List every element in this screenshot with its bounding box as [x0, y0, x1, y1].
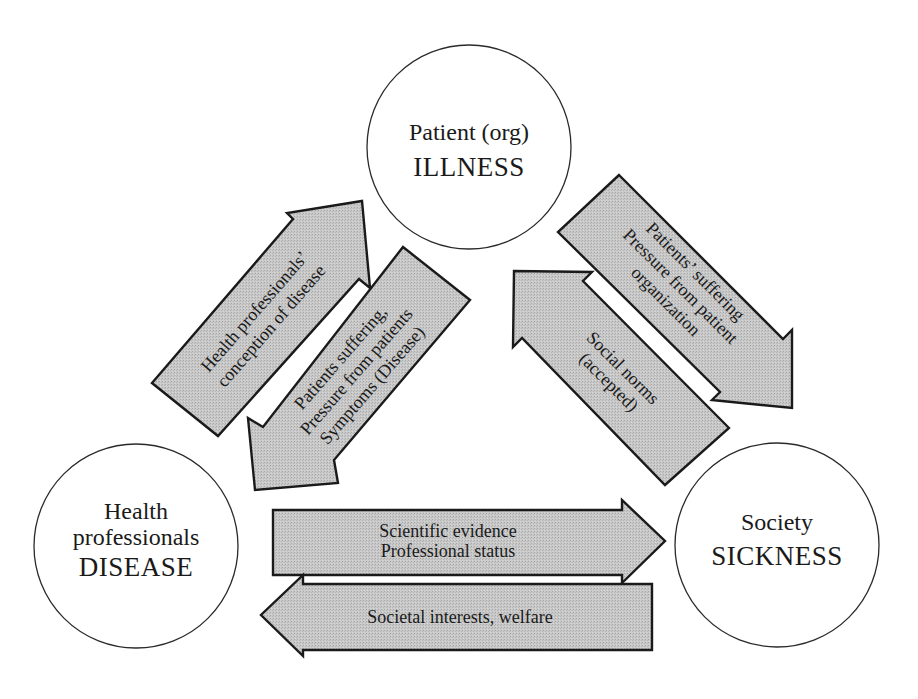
society-label: Society [741, 509, 813, 535]
disease-label: DISEASE [79, 552, 194, 582]
node-health-professionals-disease: Health professionals DISEASE [34, 444, 238, 648]
arrow-hp-to-society-line1: Scientific evidence [379, 521, 516, 541]
patient-circle [367, 45, 571, 249]
health-label: Health [104, 498, 168, 524]
illness-label: ILLNESS [413, 152, 525, 182]
node-patient-illness: Patient (org) ILLNESS [367, 45, 571, 249]
illness-disease-sickness-diagram: Patient (org) ILLNESS Health professiona… [0, 0, 918, 699]
arrow-society-to-hp-line1: Societal interests, welfare [367, 607, 552, 627]
node-society-sickness: Society SICKNESS [675, 443, 879, 647]
sickness-label: SICKNESS [711, 541, 843, 571]
arrow-society-to-hp: Societal interests, welfare [261, 575, 652, 656]
arrow-hp-to-society: Scientific evidence Professional status [273, 500, 665, 583]
arrow-hp-to-society-line2: Professional status [381, 541, 516, 561]
patient-label: Patient (org) [409, 119, 529, 145]
professionals-label: professionals [73, 524, 200, 550]
